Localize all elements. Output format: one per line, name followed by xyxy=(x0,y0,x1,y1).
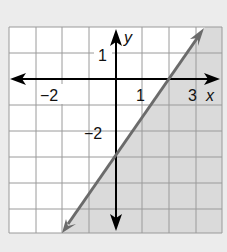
y-axis-label: y xyxy=(123,29,133,46)
coordinate-plane: −2 1 3 x 1 y −2 xyxy=(0,0,227,252)
x-axis-label: x xyxy=(205,87,215,104)
y-tick-label-neg2: −2 xyxy=(84,125,102,142)
y-tick-label-1: 1 xyxy=(98,47,107,64)
x-tick-label-1: 1 xyxy=(136,87,145,104)
x-tick-label-3: 3 xyxy=(188,87,197,104)
x-tick-label-neg2: −2 xyxy=(40,87,58,104)
